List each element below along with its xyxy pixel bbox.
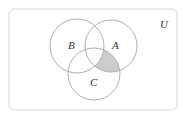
universe-label: U bbox=[160, 18, 169, 30]
set-a-label: A bbox=[111, 39, 119, 51]
venn-diagram: U B A C bbox=[0, 0, 184, 117]
set-b-label: B bbox=[68, 39, 75, 51]
set-b-circle bbox=[50, 19, 104, 73]
set-c-label: C bbox=[90, 76, 98, 88]
